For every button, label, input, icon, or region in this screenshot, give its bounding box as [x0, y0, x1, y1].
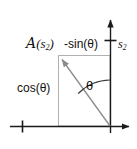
- y-axis-label: s2: [118, 38, 126, 52]
- angle-label: θ: [86, 79, 93, 92]
- sine-component-label: -sin(θ): [64, 38, 98, 50]
- rotation-diagram: A(s2) -sin(θ) s2 cos(θ) θ: [0, 0, 137, 149]
- angle-arc: [78, 80, 110, 94]
- y-axis-subscript: 2: [123, 43, 127, 52]
- cosine-component-label: cos(θ): [17, 82, 50, 94]
- operator-close-paren: ): [50, 36, 54, 51]
- operator-label: A(s2): [26, 36, 54, 52]
- diagram-canvas: [0, 0, 137, 149]
- script-a-symbol: A: [26, 35, 36, 51]
